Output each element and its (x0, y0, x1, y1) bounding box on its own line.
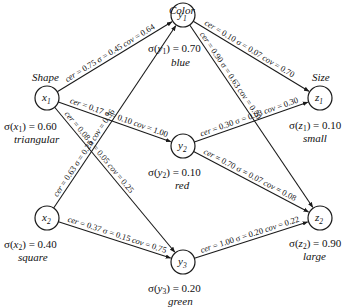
edge-label-x2-y3: cer = 0.37 σ = 0.15 cov = 0.75 (67, 214, 168, 255)
node-y2: y2 (171, 134, 195, 158)
sigma-label-z2: σ(z2) = 0.90 (289, 237, 342, 251)
category-label-x1: triangular (14, 133, 60, 145)
category-label-z2: large (303, 250, 326, 262)
category-label-x2: square (18, 251, 48, 263)
sigma-label-z1: σ(z1) = 0.10 (289, 119, 342, 133)
edge-label-y3-z2: cer = 1.00 σ = 0.20 cov = 0.22 (199, 214, 300, 255)
category-label-z1: small (303, 132, 327, 144)
edge-label-y2-z2: cer = 0.70 σ = 0.07 cov = 0.08 (202, 146, 298, 203)
category-label-y2: red (175, 179, 190, 191)
sigma-label-y2: σ(y2) = 0.10 (148, 166, 201, 180)
group-title-color: Color (169, 4, 195, 16)
category-label-y1: blue (171, 56, 190, 68)
node-y3: y3 (171, 250, 195, 274)
flow-graph-diagram: x1x2y1y2y3z1z2 cer = 0.75 σ = 0.45 cov =… (0, 0, 354, 308)
group-title-size: Size (312, 71, 330, 83)
sigma-label-y1: σ(y1) = 0.70 (148, 42, 201, 56)
sigma-label-x1: σ(x1) = 0.60 (4, 120, 57, 134)
category-label-y3: green (168, 295, 193, 307)
sigma-label-y3: σ(y3) = 0.20 (148, 282, 201, 296)
group-title-shape: Shape (32, 71, 59, 83)
node-x2: x2 (35, 206, 59, 230)
node-x1: x1 (35, 86, 59, 110)
node-z1: z1 (308, 86, 332, 110)
sigma-label-x2: σ(x2) = 0.40 (4, 238, 57, 252)
node-z2: z2 (308, 206, 332, 230)
edge-y2-z2 (194, 152, 309, 212)
